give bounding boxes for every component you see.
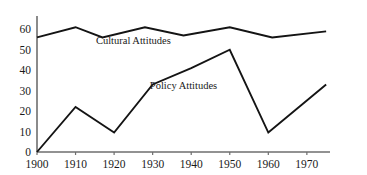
y-tick-label: 60: [20, 23, 32, 35]
y-tick-label: 40: [20, 64, 32, 76]
series-inline-label: Policy Attitudes: [150, 80, 217, 91]
y-tick-label: 30: [20, 85, 32, 97]
line-chart: 0102030405060 19001910192019301940195019…: [0, 0, 367, 175]
series-inline-labels: Cultural AttitudesPolicy Attitudes: [96, 35, 217, 91]
x-tick-label: 1900: [26, 158, 49, 170]
x-tick-label: 1950: [218, 158, 241, 170]
y-axis-tick-labels: 0102030405060: [20, 23, 32, 158]
y-tick-label: 50: [20, 44, 32, 56]
x-tick-label: 1930: [141, 158, 164, 170]
y-tick-label: 10: [20, 126, 32, 138]
y-tick-label: 20: [20, 105, 32, 117]
x-tick-label: 1970: [295, 158, 318, 170]
series-inline-label: Cultural Attitudes: [96, 35, 171, 46]
x-tick-label: 1960: [257, 158, 280, 170]
y-tick-label: 0: [25, 146, 31, 158]
x-tick-label: 1920: [103, 158, 126, 170]
data-line-cultural-attitudes: [37, 27, 326, 37]
x-tick-label: 1940: [180, 158, 203, 170]
chart-container: 0102030405060 19001910192019301940195019…: [0, 0, 367, 175]
data-line-policy-attitudes: [37, 50, 326, 152]
x-axis-tick-labels: 19001910192019301940195019601970: [26, 152, 319, 170]
x-tick-label: 1910: [64, 158, 87, 170]
